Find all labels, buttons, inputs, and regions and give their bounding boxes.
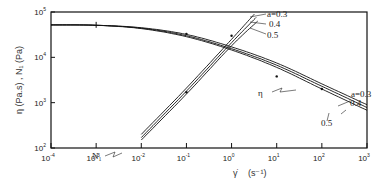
data-marker [230,35,232,37]
n1-label-a05: 0.5 [267,30,279,40]
eta-label-a05: 0.5 [321,118,333,128]
data-marker [321,88,323,90]
curve-eta-1 [51,25,367,108]
x-tick-label: 103 [358,152,370,163]
data-marker [185,33,187,35]
x-ticks: 10-410-310-210-1100101102103 [41,143,370,163]
n1-annotations [105,14,350,157]
data-marker [276,75,278,77]
n1-label-a03: a=0.3 [267,9,288,19]
x-axis-symbol: γ̇ [233,168,239,178]
x-tick-label: 100 [223,152,235,163]
x-axis-unit: (s⁻¹) [248,168,267,178]
y-tick-label: 105 [34,6,46,17]
y-tick-label: 104 [34,51,46,62]
x-tick-label: 10-1 [177,152,191,163]
plot-frame [51,12,367,148]
y-tick-label: 103 [34,97,46,108]
flow-curve-chart: 10-410-310-210-1100101102103 10210310410… [0,0,386,183]
eta-label-a04: 0.4 [350,98,362,108]
data-marker [185,91,187,93]
x-tick-label: 102 [313,152,325,163]
y-axis-title: η (Pa.s) , N₁ (Pa) [14,46,24,114]
data-curves [51,14,367,140]
curve-n1-3 [141,14,254,134]
y-tick-label: 102 [34,142,46,153]
x-tick-label: 101 [268,152,280,163]
x-tick-label: 10-2 [132,152,146,163]
y-ticks: 102103104105 [34,6,55,153]
n1-series-label: N₁ [92,151,102,161]
curve-eta-0 [51,25,367,105]
eta-series-label: η [258,88,263,98]
n1-label-a04: 0.4 [269,19,281,29]
curve-n1-4 [141,17,256,137]
x-tick-label: 10-4 [41,152,55,163]
